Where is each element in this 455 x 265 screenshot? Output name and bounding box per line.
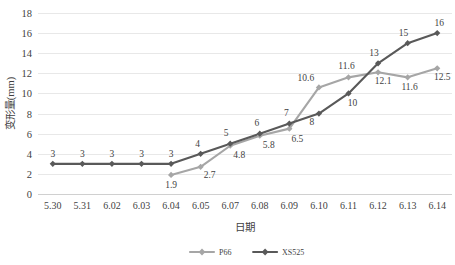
data-label: 6.5 xyxy=(291,134,303,144)
data-label: 11.6 xyxy=(401,82,418,92)
x-axis-tick-label: 6.10 xyxy=(310,200,328,211)
data-point-marker xyxy=(434,65,440,71)
y-axis-tick-label: 12 xyxy=(22,68,33,79)
data-label: 11.6 xyxy=(338,61,355,71)
series-line-xs525 xyxy=(53,33,437,164)
x-axis-tick-label: 6.07 xyxy=(221,200,239,211)
y-axis-tick-label: 4 xyxy=(27,149,33,160)
y-axis-tick-label: 16 xyxy=(22,28,33,39)
x-axis-title: 日期 xyxy=(235,222,255,233)
y-axis-tick-label: 0 xyxy=(27,189,32,200)
data-label: 12.5 xyxy=(434,72,451,82)
data-point-marker xyxy=(345,74,351,80)
deformation-line-chart: 024681012141618变形量(mm)5.305.316.026.036.… xyxy=(0,0,455,265)
legend-marker-p66 xyxy=(199,249,206,256)
data-label: 6 xyxy=(254,118,259,128)
data-label: 4.8 xyxy=(233,150,245,160)
x-axis-tick-label: 6.03 xyxy=(133,200,151,211)
y-axis-tick-label: 8 xyxy=(27,109,32,120)
data-label: 2.7 xyxy=(204,170,216,180)
data-label: 8 xyxy=(310,117,315,127)
data-label: 7 xyxy=(284,108,289,118)
x-axis-tick-label: 6.02 xyxy=(103,200,121,211)
x-axis-tick-label: 5.30 xyxy=(44,200,62,211)
data-point-marker xyxy=(168,172,174,178)
data-point-marker xyxy=(50,161,56,167)
data-label: 3 xyxy=(50,149,55,159)
data-point-marker xyxy=(375,69,381,75)
x-axis-tick-label: 6.12 xyxy=(369,200,387,211)
x-axis-tick-label: 6.05 xyxy=(192,200,210,211)
data-point-marker xyxy=(138,161,144,167)
x-axis-tick-label: 6.09 xyxy=(281,200,299,211)
data-point-marker xyxy=(79,161,85,167)
data-label: 3 xyxy=(169,149,174,159)
legend-marker-xs525 xyxy=(262,249,269,256)
data-label: 4 xyxy=(195,139,200,149)
data-label: 13 xyxy=(369,48,379,58)
y-axis-tick-label: 6 xyxy=(27,129,32,140)
data-point-marker xyxy=(198,151,204,157)
legend-label-xs525[interactable]: XS525 xyxy=(282,248,304,257)
series-line-p66 xyxy=(171,68,437,175)
data-label: 10 xyxy=(348,98,358,108)
data-point-marker xyxy=(405,74,411,80)
x-axis-tick-label: 6.13 xyxy=(399,200,417,211)
data-label: 16 xyxy=(434,18,444,28)
data-label: 5 xyxy=(224,128,229,138)
x-axis-tick-label: 6.08 xyxy=(251,200,269,211)
data-label: 1.9 xyxy=(165,180,177,190)
x-axis-tick-label: 5.31 xyxy=(74,200,92,211)
data-label: 3 xyxy=(110,149,115,159)
data-label: 15 xyxy=(399,28,409,38)
data-label: 3 xyxy=(80,149,85,159)
legend-label-p66[interactable]: P66 xyxy=(219,248,231,257)
y-axis-title: 变形量(mm) xyxy=(4,76,17,130)
x-axis-tick-label: 6.11 xyxy=(340,200,357,211)
data-label: 12.1 xyxy=(375,76,392,86)
x-axis-tick-label: 6.14 xyxy=(428,200,446,211)
data-label: 3 xyxy=(139,149,144,159)
data-point-marker xyxy=(109,161,115,167)
data-label: 5.8 xyxy=(263,140,275,150)
y-axis-tick-label: 10 xyxy=(22,88,33,99)
data-label: 10.6 xyxy=(298,73,315,83)
x-axis-tick-label: 6.04 xyxy=(162,200,180,211)
y-axis-tick-label: 2 xyxy=(27,169,32,180)
y-axis-tick-label: 18 xyxy=(22,8,33,19)
y-axis-tick-label: 14 xyxy=(22,48,33,59)
data-point-marker xyxy=(434,30,440,36)
chart-canvas: 024681012141618变形量(mm)5.305.316.026.036.… xyxy=(0,0,455,265)
data-point-marker xyxy=(168,161,174,167)
